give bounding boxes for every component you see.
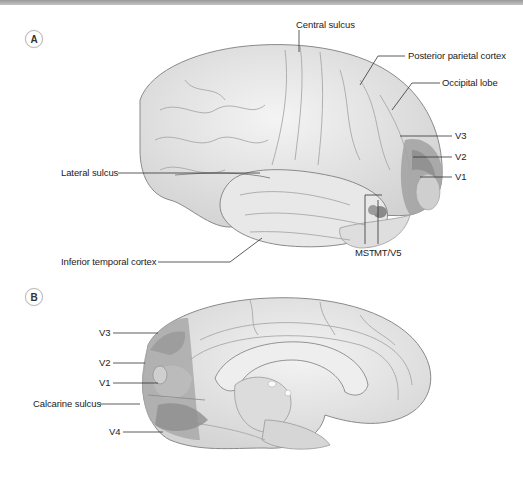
label-calcarine-sulcus: Calcarine sulcus	[33, 398, 101, 409]
brain-diagram-artwork	[0, 0, 523, 492]
label-v4-medial: V4	[109, 426, 120, 437]
label-v1-lateral: V1	[455, 171, 466, 182]
label-v2-lateral: V2	[455, 151, 466, 162]
label-v2-medial: V2	[99, 357, 110, 368]
medial-brain	[142, 298, 431, 449]
label-v3-medial: V3	[99, 327, 110, 338]
label-lateral-sulcus: Lateral sulcus	[61, 167, 118, 178]
panel-label-a: A	[25, 30, 43, 48]
label-mt-v5: MT/V5	[374, 247, 401, 258]
label-v3-lateral: V3	[455, 130, 466, 141]
label-v1-medial: V1	[99, 377, 110, 388]
label-central-sulcus: Central sulcus	[296, 19, 355, 30]
lateral-brain	[140, 45, 442, 248]
label-posterior-parietal-cortex: Posterior parietal cortex	[408, 50, 506, 61]
panel-label-b: B	[25, 288, 43, 306]
label-inferior-temporal-cortex: Inferior temporal cortex	[61, 256, 156, 267]
label-occipital-lobe: Occipital lobe	[442, 77, 498, 88]
label-mst: MST	[355, 247, 375, 258]
